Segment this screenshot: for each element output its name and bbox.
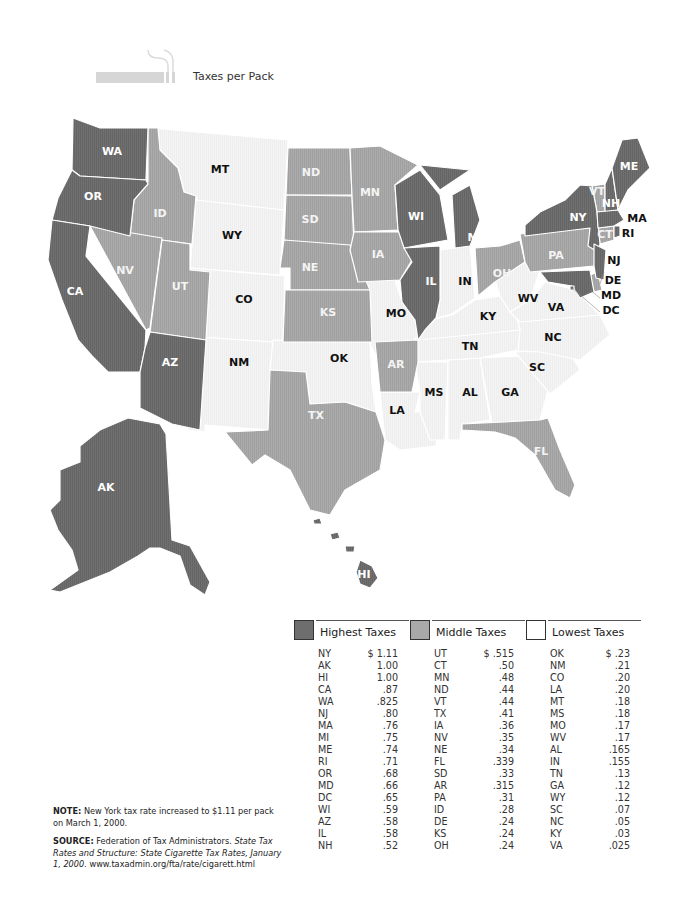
- state-abbr: NM: [550, 660, 565, 672]
- label-LA: LA: [389, 404, 405, 417]
- legend-rows: OK$ .23 NM.21 CO.20 LA.20 MT.18 MS.18 MO…: [550, 648, 640, 852]
- state-abbr: TX: [434, 708, 446, 720]
- swatch-middle: [410, 620, 430, 640]
- state-AK[interactable]: [50, 418, 210, 595]
- tax-rate: .80: [383, 708, 398, 720]
- label-NE: NE: [302, 261, 319, 274]
- state-abbr: WI: [318, 804, 330, 816]
- label-KY: KY: [480, 310, 498, 323]
- tax-rate: .24: [499, 840, 514, 852]
- legend-rows: UT$ .515 CT.50 MN.48 ND.44 VT.44 TX.41 I…: [434, 648, 524, 852]
- state-FL[interactable]: [462, 418, 575, 498]
- tax-rate: .58: [383, 828, 398, 840]
- tax-rate: .44: [499, 684, 514, 696]
- state-abbr: OR: [318, 768, 332, 780]
- label-SD: SD: [301, 213, 318, 226]
- state-abbr: WY: [550, 792, 565, 804]
- state-abbr: HI: [318, 672, 328, 684]
- legend-row: MS.18: [550, 708, 640, 720]
- legend-row: MI.75: [318, 732, 408, 744]
- label-VA: VA: [548, 301, 565, 314]
- tax-rate: .35: [499, 732, 514, 744]
- label-CA: CA: [67, 285, 84, 298]
- label-OK: OK: [330, 352, 348, 365]
- legend-row: OH.24: [434, 840, 524, 852]
- label-MA: MA: [627, 212, 647, 225]
- tax-rate: .315: [493, 780, 514, 792]
- legend-row: AZ.58: [318, 816, 408, 828]
- legend-row: TN.13: [550, 768, 640, 780]
- legend-row: RI.71: [318, 756, 408, 768]
- legend-rule: [316, 620, 409, 621]
- tax-rate: .52: [383, 840, 398, 852]
- legend-row: HI1.00: [318, 672, 408, 684]
- label-MI: MI: [467, 231, 482, 244]
- label-ND: ND: [302, 166, 320, 179]
- tax-rate: .05: [615, 816, 630, 828]
- state-abbr: UT: [434, 648, 447, 660]
- legend-row: NH.52: [318, 840, 408, 852]
- legend-row: PA.31: [434, 792, 524, 804]
- state-abbr: MA: [318, 720, 333, 732]
- state-AZ[interactable]: [140, 332, 206, 430]
- label-CT: CT: [597, 228, 613, 241]
- tax-rate: .24: [499, 828, 514, 840]
- tax-rate: .07: [615, 804, 630, 816]
- label-OR: OR: [84, 190, 102, 203]
- state-abbr: NC: [550, 816, 564, 828]
- state-abbr: VA: [550, 840, 563, 852]
- label-UT: UT: [172, 280, 189, 293]
- legend-row: OR.68: [318, 768, 408, 780]
- legend-rule: [432, 620, 525, 621]
- state-abbr: CO: [550, 672, 564, 684]
- legend-row: AK1.00: [318, 660, 408, 672]
- state-MA[interactable]: [597, 210, 624, 228]
- source-text: Federation of Tax Administrators.: [96, 836, 232, 846]
- state-abbr: CA: [318, 684, 331, 696]
- label-FL: FL: [534, 445, 549, 458]
- legend-row: ME.74: [318, 744, 408, 756]
- tax-rate: .31: [499, 792, 514, 804]
- us-map: WA OR CA ID NV UT AZ MT WY CO NM ND SD N…: [0, 0, 690, 600]
- label-NH: NH: [602, 197, 620, 210]
- tax-rate: .165: [609, 744, 630, 756]
- state-abbr: CT: [434, 660, 447, 672]
- label-ME: ME: [620, 160, 638, 173]
- label-IN: IN: [458, 275, 471, 288]
- state-abbr: WA: [318, 696, 334, 708]
- tax-rate: .71: [383, 756, 398, 768]
- legend-row: WA.825: [318, 696, 408, 708]
- state-abbr: SC: [550, 804, 563, 816]
- label-ID: ID: [153, 207, 166, 220]
- legend-row: SC.07: [550, 804, 640, 816]
- tax-rate: .58: [383, 816, 398, 828]
- tax-rate: .87: [383, 684, 398, 696]
- legend-row: ID.28: [434, 804, 524, 816]
- label-DC: DC: [602, 304, 619, 317]
- state-abbr: AK: [318, 660, 331, 672]
- tax-rate: $ .515: [483, 648, 514, 660]
- state-abbr: FL: [434, 756, 445, 768]
- tax-rate: .03: [615, 828, 630, 840]
- legend-row: VA.025: [550, 840, 640, 852]
- state-abbr: WV: [550, 732, 566, 744]
- label-TN: TN: [462, 340, 479, 353]
- us-map-svg: WA OR CA ID NV UT AZ MT WY CO NM ND SD N…: [0, 0, 690, 600]
- legend-row: NC.05: [550, 816, 640, 828]
- tax-rate: .20: [615, 684, 630, 696]
- state-RI[interactable]: [614, 226, 620, 238]
- legend-row: VT.44: [434, 696, 524, 708]
- state-abbr: KS: [434, 828, 446, 840]
- legend-row: NY$ 1.11: [318, 648, 408, 660]
- tax-rate: $ 1.11: [367, 648, 398, 660]
- state-abbr: OH: [434, 840, 449, 852]
- tax-rate: .17: [615, 720, 630, 732]
- tax-rate: .025: [609, 840, 630, 852]
- tax-rate: .13: [615, 768, 630, 780]
- tax-rate: .41: [499, 708, 514, 720]
- label-KS: KS: [320, 306, 337, 319]
- state-abbr: NE: [434, 744, 447, 756]
- legend-row: UT$ .515: [434, 648, 524, 660]
- label-HI: HI: [357, 568, 370, 581]
- legend-row: WI.59: [318, 804, 408, 816]
